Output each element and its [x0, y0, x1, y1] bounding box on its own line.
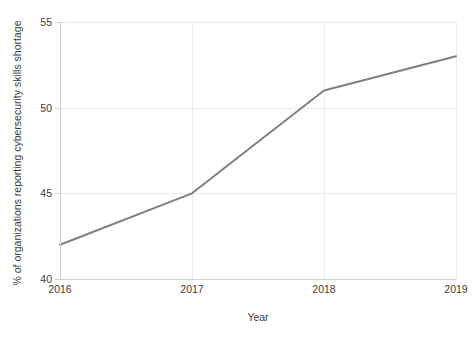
x-axis-tick-label: 2018 [294, 283, 354, 295]
y-axis-tick-mark [55, 22, 60, 23]
y-axis-tick-label: 55 [8, 16, 52, 28]
y-axis-tick-mark [55, 279, 60, 280]
line-chart: % of organizations reporting cybersecuri… [0, 0, 476, 337]
y-axis-tick-mark [55, 193, 60, 194]
x-axis-tick-label: 2016 [30, 283, 90, 295]
y-axis-tick-label: 45 [8, 187, 52, 199]
series-line-skills-shortage [60, 56, 456, 244]
plot-area [60, 22, 456, 279]
x-axis-tick-label: 2017 [162, 283, 222, 295]
x-axis-spine [60, 279, 456, 280]
x-axis-tick-label: 2019 [426, 283, 476, 295]
gridline-vertical [456, 22, 457, 279]
y-axis-spine [60, 22, 61, 280]
y-axis-tick-label: 50 [8, 102, 52, 114]
y-axis-tick-mark [55, 108, 60, 109]
x-axis-title: Year [60, 311, 456, 323]
series-line-group [60, 22, 456, 279]
